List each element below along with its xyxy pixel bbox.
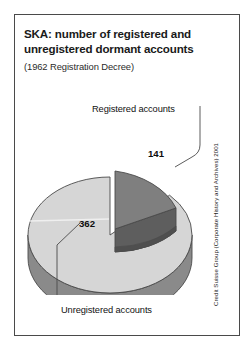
pie-chart-graphic — [14, 95, 240, 295]
figure-container: SKA: number of registered and unregister… — [0, 0, 250, 351]
credit-text: Credit Suisse Group (Corporate History a… — [212, 96, 219, 306]
credit-text-rotated: Credit Suisse Group (Corporate History a… — [212, 0, 224, 96]
leader-line-registered — [175, 106, 200, 167]
data-label-unregistered: 362 — [79, 218, 95, 229]
callout-label-registered: Registered accounts — [92, 104, 175, 114]
title-block: SKA: number of registered and unregister… — [24, 27, 208, 73]
data-label-registered: 141 — [148, 148, 164, 159]
page-title: SKA: number of registered and unregister… — [24, 27, 208, 56]
pie-chart — [14, 95, 240, 295]
chart-subtitle: (1962 Registration Decree) — [24, 61, 208, 73]
callout-label-unregistered: Unregistered accounts — [61, 305, 152, 315]
